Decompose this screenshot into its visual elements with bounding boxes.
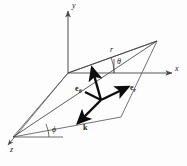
e-r-vector <box>101 87 128 100</box>
diagram-canvas <box>0 0 187 166</box>
figure-container: y x z r θ ϕ eθ er k <box>0 0 187 166</box>
e-r-label: er <box>130 84 136 93</box>
e-r-subscript: r <box>134 87 136 93</box>
theta-angle-label: θ <box>117 58 121 66</box>
phi-angle-label: ϕ <box>52 126 56 134</box>
k-vector <box>78 100 101 123</box>
z-axis-label: z <box>10 146 13 154</box>
e-theta-label: eθ <box>75 85 82 94</box>
x-axis-label: x <box>175 65 179 73</box>
e-theta-subscript: θ <box>79 88 82 94</box>
k-vector-label: k <box>83 124 87 132</box>
y-axis-label: y <box>72 2 76 10</box>
radius-label-r: r <box>110 46 113 54</box>
unit-vector-group <box>78 68 128 123</box>
